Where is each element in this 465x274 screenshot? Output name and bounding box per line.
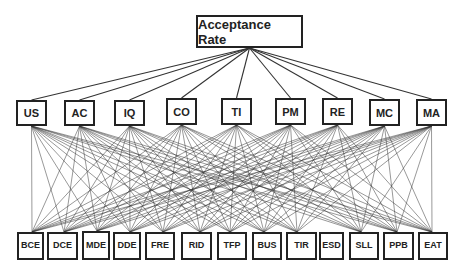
indicator-node-label: DDE bbox=[117, 240, 136, 250]
factor-node-mc: MC bbox=[369, 99, 400, 126]
factor-node-label: MA bbox=[423, 107, 440, 119]
factor-node-label: RE bbox=[330, 106, 345, 118]
factor-node-ac: AC bbox=[64, 100, 95, 126]
indicator-node-label: TFP bbox=[224, 240, 241, 250]
node-acceptance-rate-label: Acceptance Rate bbox=[198, 17, 301, 47]
factor-node-ti: TI bbox=[221, 98, 252, 125]
factor-node-ma: MA bbox=[416, 99, 447, 126]
indicator-node-label: MDE bbox=[86, 240, 106, 250]
indicator-node-dde: DDE bbox=[113, 232, 141, 260]
indicator-node-label: TIR bbox=[294, 240, 309, 250]
factor-node-label: US bbox=[24, 107, 39, 119]
indicator-node-label: BUS bbox=[257, 240, 276, 250]
indicator-node-bus: BUS bbox=[252, 232, 282, 260]
indicator-node-dce: DCE bbox=[47, 232, 78, 260]
indicator-node-label: RID bbox=[189, 240, 205, 250]
factor-node-label: MC bbox=[376, 107, 393, 119]
indicator-node-fre: FRE bbox=[145, 232, 175, 260]
factor-node-label: CO bbox=[173, 106, 190, 118]
factor-node-co: CO bbox=[166, 98, 197, 125]
factor-node-label: TI bbox=[232, 106, 242, 118]
factor-node-label: IQ bbox=[124, 107, 136, 119]
indicator-node-label: EAT bbox=[424, 240, 441, 250]
indicator-node-label: DCE bbox=[53, 240, 72, 250]
indicator-node-mde: MDE bbox=[82, 231, 110, 260]
indicator-node-esd: ESD bbox=[319, 232, 344, 260]
factor-node-pm: PM bbox=[275, 98, 306, 125]
indicator-node-label: SLL bbox=[356, 240, 373, 250]
factor-node-us: US bbox=[16, 100, 47, 126]
indicator-node-tfp: TFP bbox=[217, 232, 247, 260]
indicator-node-sll: SLL bbox=[349, 232, 379, 260]
indicator-node-label: ESD bbox=[322, 240, 341, 250]
indicator-node-ppb: PPB bbox=[383, 232, 414, 260]
factor-node-iq: IQ bbox=[114, 100, 145, 126]
indicator-node-eat: EAT bbox=[418, 232, 448, 260]
indicator-node-label: FRE bbox=[151, 240, 169, 250]
indicator-node-tir: TIR bbox=[286, 232, 317, 260]
indicator-node-bce: BCE bbox=[17, 232, 44, 260]
acceptance-rate-hierarchy-diagram: Acceptance Rate USACIQCOTIPMREMCMA BCEDC… bbox=[0, 0, 465, 274]
factor-node-label: PM bbox=[282, 106, 299, 118]
factor-node-re: RE bbox=[322, 98, 353, 125]
node-acceptance-rate: Acceptance Rate bbox=[196, 15, 303, 48]
indicator-node-label: PPB bbox=[389, 240, 408, 250]
factor-node-label: AC bbox=[72, 107, 88, 119]
indicator-node-rid: RID bbox=[181, 232, 212, 260]
indicator-node-label: BCE bbox=[21, 240, 40, 250]
